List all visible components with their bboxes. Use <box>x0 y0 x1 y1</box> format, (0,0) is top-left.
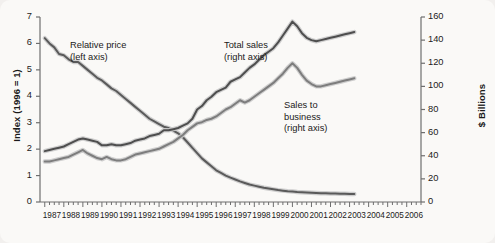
annotation-relative-price-line2: (left axis) <box>70 52 126 64</box>
left-tick-6: 6 <box>12 37 32 47</box>
annotation-total-sales: Total sales (right axis) <box>224 40 268 63</box>
right-tick-80: 80 <box>428 104 452 114</box>
right-tick-140: 140 <box>428 34 452 44</box>
left-tick-7: 7 <box>12 11 32 21</box>
annotation-total-sales-line2: (right axis) <box>224 52 268 64</box>
chart-card: Index (1996 = 1) $ Billions Relative pri… <box>0 0 495 243</box>
right-axis-title: $ Billions <box>476 46 487 166</box>
right-tick-20: 20 <box>428 173 452 183</box>
left-tick-3: 3 <box>12 117 32 127</box>
left-tick-0: 0 <box>12 196 32 206</box>
annotation-relative-price: Relative price (left axis) <box>70 40 126 63</box>
annotation-total-sales-line1: Total sales <box>224 40 268 52</box>
right-tick-0: 0 <box>428 196 452 206</box>
x-tick-2006: 2006 <box>400 211 428 220</box>
right-tick-100: 100 <box>428 80 452 90</box>
right-tick-120: 120 <box>428 57 452 67</box>
annotation-sales-to-business-line2: business <box>284 112 327 124</box>
left-tick-5: 5 <box>12 64 32 74</box>
left-tick-1: 1 <box>12 170 32 180</box>
annotation-sales-to-business: Sales to business (right axis) <box>284 100 327 135</box>
right-tick-160: 160 <box>428 11 452 21</box>
annotation-sales-to-business-line1: Sales to <box>284 100 327 112</box>
annotation-relative-price-line1: Relative price <box>70 40 126 52</box>
dual-axis-line-chart <box>0 0 495 243</box>
annotation-sales-to-business-line3: (right axis) <box>284 123 327 135</box>
right-tick-40: 40 <box>428 150 452 160</box>
left-tick-2: 2 <box>12 143 32 153</box>
right-tick-60: 60 <box>428 127 452 137</box>
left-tick-4: 4 <box>12 90 32 100</box>
